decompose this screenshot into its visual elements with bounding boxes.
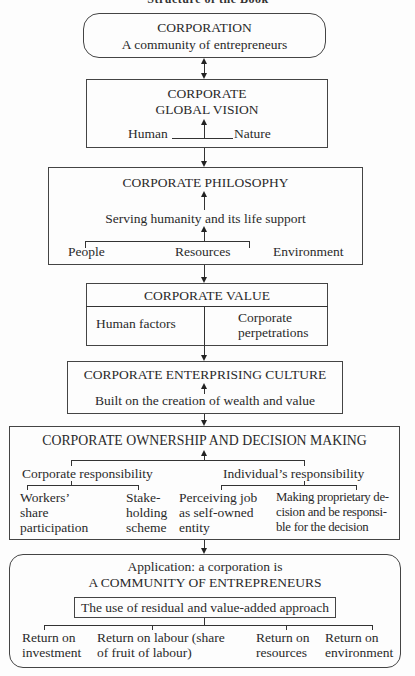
value-human-factors: Human factors <box>96 316 176 331</box>
philosophy-middle: Serving humanity and its life support <box>48 211 363 226</box>
leaf-line: Workers’ <box>20 490 88 505</box>
application-line2: A COMMUNITY OF ENTREPRENEURS <box>9 575 401 590</box>
global-vision-title-2: GLOBAL VISION <box>86 102 328 117</box>
return-line: Return on <box>22 630 81 645</box>
individual-responsibility-label: Individual’s responsibility <box>223 466 364 481</box>
returns-bracket <box>44 625 373 626</box>
diagram-title-cropped: Structure of the Book <box>138 0 278 7</box>
leaf-line: entity <box>179 520 257 535</box>
leaf-line: scheme <box>126 520 167 535</box>
arrow-up-icon <box>201 58 207 64</box>
human-nature-line <box>172 138 233 139</box>
human-label: Human <box>128 126 168 141</box>
philosophy-item-people: People <box>68 244 105 259</box>
vision-stem <box>204 124 205 138</box>
leaf-line: share <box>20 505 88 520</box>
philosophy-item-environment: Environment <box>273 244 344 259</box>
arrow-up-icon <box>201 226 207 232</box>
ownership-title: CORPORATE OWNERSHIP AND DECISION MAKING <box>9 433 400 448</box>
philosophy-stem-top <box>204 196 205 210</box>
ownership-leaf-workers: Workers’ share participation <box>20 490 88 535</box>
return-resources: Return on resources <box>256 630 310 660</box>
global-vision-title-1: CORPORATE <box>86 86 328 101</box>
arrow-up-icon <box>201 450 207 456</box>
corporation-subtitle: A community of entrepreneurs <box>83 37 326 52</box>
corporation-title: CORPORATION <box>83 20 326 35</box>
connector-line <box>204 148 205 162</box>
return-labour: Return on labour (share of fruit of labo… <box>97 630 225 660</box>
return-line: investment <box>22 645 81 660</box>
leaf-line: Perceiving job <box>179 490 257 505</box>
return-line: Return on labour (share <box>97 630 225 645</box>
ownership-leaf-proprietary: Making proprietary de- cision and be res… <box>276 490 389 535</box>
corporate-responsibility-label: Corporate responsibility <box>22 466 153 481</box>
approach-stem <box>204 618 205 625</box>
leaf-line: participation <box>20 520 88 535</box>
leaf-line: ble for the decision <box>276 520 389 535</box>
return-line: Return on <box>325 630 393 645</box>
leaf-line: Making proprietary de- <box>276 490 389 505</box>
value-vertical-divider <box>204 306 205 346</box>
return-line: of fruit of labour) <box>97 645 225 660</box>
return-line: resources <box>256 645 310 660</box>
approach-text: The use of residual and value-added appr… <box>74 600 336 615</box>
ownership-leaf-perceiving: Perceiving job as self-owned entity <box>179 490 257 535</box>
leaf-line: cision and be responsi- <box>276 505 389 520</box>
leaf-line: Stake- <box>126 490 167 505</box>
return-line: environment <box>325 645 393 660</box>
arrow-up-icon <box>201 119 207 125</box>
arrow-up-icon <box>201 191 207 197</box>
corporate-bracket <box>27 485 139 486</box>
ownership-bracket <box>71 460 305 461</box>
value-corporate-line1: Corporate <box>238 310 292 325</box>
value-corporate-line2: perpetrations <box>238 325 308 340</box>
return-line: Return on <box>256 630 310 645</box>
application-line1: Application: a corporation is <box>9 559 401 574</box>
culture-title: CORPORATE ENTERPRISING CULTURE <box>67 367 343 382</box>
value-title: CORPORATE VALUE <box>86 288 328 303</box>
individual-bracket <box>221 485 357 486</box>
philosophy-title: CORPORATE PHILOSOPHY <box>48 175 363 190</box>
leaf-line: holding <box>126 505 167 520</box>
return-investment: Return on investment <box>22 630 81 660</box>
philosophy-bracket <box>85 241 250 242</box>
arrow-up-icon <box>201 383 207 389</box>
ownership-leaf-stakeholding: Stake- holding scheme <box>126 490 167 535</box>
leaf-line: as self-owned <box>179 505 257 520</box>
philosophy-bracket-right <box>249 241 250 248</box>
philosophy-item-resources: Resources <box>175 244 230 259</box>
nature-label: Nature <box>234 126 271 141</box>
return-environment: Return on environment <box>325 630 393 660</box>
value-divider <box>86 306 328 307</box>
culture-subtitle: Built on the creation of wealth and valu… <box>67 393 343 408</box>
philosophy-stem-bottom <box>204 231 205 241</box>
